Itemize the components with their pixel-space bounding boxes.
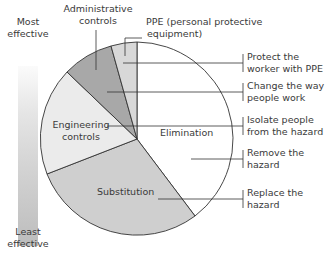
- desc-sub-line2: hazard: [247, 199, 303, 211]
- desc-ppe-line2: worker with PPE: [247, 63, 323, 75]
- desc-isolate-people: Isolate people from the hazard: [247, 114, 323, 138]
- label-ppe: PPE (personal protective equipment): [146, 16, 262, 40]
- desc-sub-line1: Replace the: [247, 187, 303, 199]
- label-administrative-controls: Administrative controls: [62, 3, 134, 27]
- desc-replace-hazard: Replace the hazard: [247, 187, 303, 211]
- administrative-line1: Administrative: [62, 3, 134, 15]
- label-elimination: Elimination: [160, 127, 213, 139]
- desc-elim-line2: hazard: [247, 159, 304, 171]
- desc-elim-line1: Remove the: [247, 147, 304, 159]
- desc-eng-line1: Isolate people: [247, 114, 323, 126]
- desc-remove-hazard: Remove the hazard: [247, 147, 304, 171]
- ppe-line1: PPE (personal protective: [146, 16, 262, 28]
- desc-admin-line2: people work: [247, 92, 324, 104]
- desc-admin-line1: Change the way: [247, 80, 324, 92]
- desc-change-way: Change the way people work: [247, 80, 324, 104]
- desc-eng-line2: from the hazard: [247, 126, 323, 138]
- engineering-line2: controls: [49, 131, 113, 143]
- desc-protect-worker: Protect the worker with PPE: [247, 51, 323, 75]
- label-engineering-controls: Engineering controls: [49, 119, 113, 143]
- desc-ppe-line1: Protect the: [247, 51, 323, 63]
- administrative-line2: controls: [62, 15, 134, 27]
- engineering-line1: Engineering: [49, 119, 113, 131]
- ppe-line2: equipment): [146, 28, 262, 40]
- label-substitution: Substitution: [97, 186, 154, 198]
